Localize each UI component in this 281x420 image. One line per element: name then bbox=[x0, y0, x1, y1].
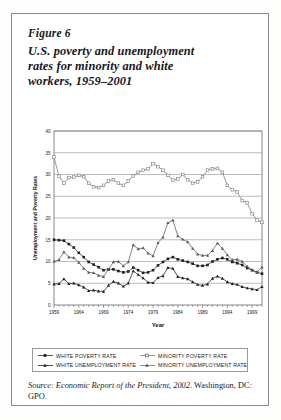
legend-marker-filled-triangle-icon bbox=[38, 362, 53, 369]
data-point bbox=[68, 243, 71, 246]
figure-page: Figure 6 U.S. poverty and unemployment r… bbox=[0, 0, 281, 420]
data-point bbox=[162, 169, 165, 172]
data-point bbox=[102, 269, 105, 272]
x-tick-label: 1994 bbox=[222, 310, 233, 315]
data-point bbox=[221, 257, 224, 260]
data-point bbox=[147, 167, 150, 170]
data-point bbox=[77, 252, 80, 255]
data-point bbox=[241, 264, 244, 267]
data-point bbox=[236, 262, 239, 265]
source-citation: Economic Report of the President, 2002 bbox=[56, 381, 190, 390]
data-point bbox=[172, 256, 175, 259]
data-point bbox=[176, 178, 179, 181]
data-point bbox=[142, 169, 145, 172]
figure-number: Figure 6 bbox=[28, 27, 252, 39]
data-point bbox=[177, 258, 180, 261]
data-point bbox=[137, 269, 140, 272]
data-point bbox=[58, 175, 61, 178]
data-point bbox=[226, 184, 229, 187]
data-point bbox=[236, 191, 239, 194]
data-point bbox=[181, 259, 184, 262]
data-point bbox=[186, 178, 189, 181]
legend-item-minority-poverty-rate: MINORITY POVERTY RATE bbox=[140, 352, 242, 359]
data-point bbox=[201, 175, 204, 178]
data-point bbox=[172, 179, 175, 182]
figure-title-line-2: rates for minority and white bbox=[28, 59, 252, 74]
data-point bbox=[82, 256, 85, 259]
data-point bbox=[87, 182, 90, 185]
chart-area: 0510152025303540195919641969197419791984… bbox=[16, 119, 266, 349]
chart-legend: WHITE POVERTY RATE MINORITY POVERTY RATE bbox=[32, 348, 248, 372]
legend-marker-open-square-icon bbox=[140, 352, 155, 359]
x-tick-label: 1984 bbox=[173, 310, 184, 315]
data-point bbox=[112, 178, 115, 181]
data-point bbox=[122, 271, 125, 274]
data-point bbox=[196, 181, 199, 184]
data-point bbox=[77, 174, 80, 177]
data-point bbox=[72, 176, 75, 179]
y-tick-label: 15 bbox=[45, 238, 51, 243]
data-point bbox=[261, 272, 264, 275]
figure-title: U.S. poverty and unemployment rates for … bbox=[28, 44, 252, 90]
data-point bbox=[216, 258, 219, 261]
data-point bbox=[142, 272, 145, 275]
legend-item-minority-unemployment-rate: MINORITY UNEMPLOYMENT RATE bbox=[140, 362, 242, 369]
x-axis-title: Year bbox=[152, 322, 165, 328]
x-tick-label: 1964 bbox=[74, 310, 85, 315]
data-point bbox=[226, 258, 229, 261]
legend-label-white-unemployment-rate: WHITE UNEMPLOYMENT RATE bbox=[56, 362, 136, 368]
data-point bbox=[162, 261, 165, 264]
data-point bbox=[246, 201, 249, 204]
data-point bbox=[132, 266, 135, 269]
legend-label-minority-unemployment-rate: MINORITY UNEMPLOYMENT RATE bbox=[158, 362, 247, 368]
data-point bbox=[63, 239, 66, 242]
data-point bbox=[186, 261, 189, 264]
y-tick-label: 25 bbox=[45, 194, 51, 199]
data-point bbox=[211, 167, 214, 170]
data-point bbox=[107, 180, 110, 183]
data-point bbox=[63, 182, 66, 185]
data-point bbox=[73, 246, 76, 249]
figure-title-line-1: U.S. poverty and unemployment bbox=[28, 44, 252, 59]
data-point bbox=[92, 263, 95, 266]
data-point bbox=[196, 265, 199, 268]
y-axis-title: Unemployment and Poverty Rates bbox=[32, 176, 38, 260]
line-chart: 0510152025303540195919641969197419791984… bbox=[16, 119, 266, 349]
data-point bbox=[147, 271, 150, 274]
data-point bbox=[102, 184, 105, 187]
x-tick-label: 1959 bbox=[49, 310, 60, 315]
figure-title-block: Figure 6 U.S. poverty and unemployment r… bbox=[12, 14, 268, 90]
legend-label-minority-poverty-rate: MINORITY POVERTY RATE bbox=[158, 353, 227, 359]
data-point bbox=[53, 238, 56, 241]
y-tick-label: 40 bbox=[45, 129, 51, 134]
y-tick-label: 5 bbox=[48, 281, 51, 286]
figure-source: Source: Economic Report of the President… bbox=[28, 381, 256, 402]
data-point bbox=[211, 260, 214, 263]
legend-item-white-unemployment-rate: WHITE UNEMPLOYMENT RATE bbox=[38, 362, 140, 369]
y-tick-label: 10 bbox=[45, 259, 51, 264]
data-point bbox=[97, 186, 100, 189]
data-point bbox=[256, 219, 259, 222]
data-point bbox=[221, 171, 224, 174]
data-point bbox=[152, 269, 155, 272]
data-point bbox=[97, 266, 100, 269]
data-point bbox=[132, 174, 135, 177]
x-tick-label: 1989 bbox=[197, 310, 208, 315]
data-point bbox=[92, 185, 95, 188]
data-point bbox=[191, 262, 194, 265]
source-prefix: Source: bbox=[28, 381, 54, 390]
data-point bbox=[68, 176, 71, 179]
data-point bbox=[261, 221, 264, 224]
data-point bbox=[117, 182, 120, 185]
data-point bbox=[137, 171, 140, 174]
data-point bbox=[201, 265, 204, 268]
data-point bbox=[167, 258, 170, 261]
y-tick-label: 35 bbox=[45, 151, 51, 156]
data-point bbox=[241, 199, 244, 202]
data-point bbox=[152, 162, 155, 165]
data-point bbox=[112, 268, 115, 271]
data-point bbox=[127, 270, 130, 273]
data-point bbox=[58, 239, 61, 242]
x-tick-label: 1999 bbox=[247, 310, 258, 315]
data-point bbox=[82, 175, 85, 178]
